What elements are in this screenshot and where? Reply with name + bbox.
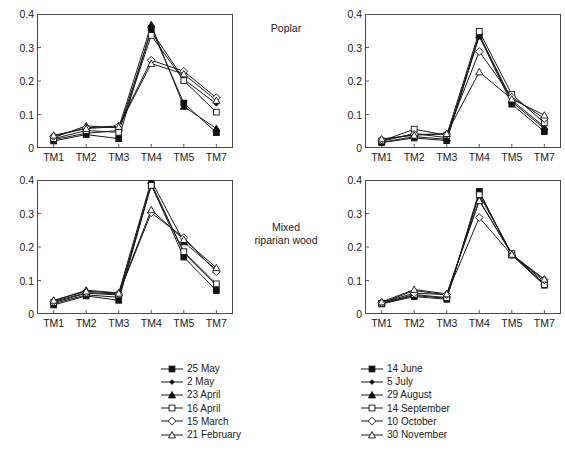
y-tick-label: 0 (28, 143, 34, 153)
legend-marker-filled-square-icon (360, 363, 384, 375)
x-tick-label-tm3: TM3 (108, 318, 129, 329)
x-axis-labels-br: TM1TM2TM3TM4TM5TM7 (365, 318, 561, 332)
legend-marker-filled-square-icon (160, 363, 184, 375)
legend-marker-filled-triangle-icon (360, 389, 384, 401)
x-axis-labels-tr: TM1TM2TM3TM4TM5TM7 (365, 152, 561, 166)
legend-item[interactable]: 16 April (160, 402, 241, 415)
plot-series-tl (37, 14, 233, 148)
y-tick-label: 0.1 (347, 276, 362, 286)
y-tick-label: 0 (356, 309, 362, 319)
x-tick-label-tm1: TM1 (43, 318, 64, 329)
legend-marker-open-diamond-icon (160, 415, 184, 427)
x-tick-label-tm3: TM3 (108, 152, 129, 163)
x-tick-label-tm2: TM2 (76, 318, 97, 329)
plot-series-bl (37, 180, 233, 314)
x-tick-label-tm3: TM3 (436, 318, 457, 329)
legend-item-label: 2 May (187, 375, 214, 388)
y-tick-label: 0.3 (347, 209, 362, 219)
legend-item-label: 15 March (187, 415, 229, 428)
legend-item[interactable]: 14 September (360, 402, 450, 415)
chart-panel-poplar-autumn: 00.10.20.30.4 TM1TM2TM3TM4TM5TM7 (336, 6, 565, 166)
row-title-poplar-text: Poplar (271, 22, 301, 34)
legend-item[interactable]: 10 October (360, 415, 450, 428)
plot-series-tr (365, 14, 561, 148)
row-title-mixed-line2: riparian wood (238, 234, 334, 247)
x-tick-label-tm2: TM2 (76, 152, 97, 163)
row-title-mixed-line1: Mixed (238, 221, 334, 234)
legend-item-label: 23 April (187, 388, 220, 401)
x-tick-label-tm5: TM5 (173, 152, 194, 163)
y-axis-labels-tr: 00.10.20.30.4 (336, 6, 362, 166)
legend-marker-open-triangle-icon (360, 429, 384, 441)
legend-marker-open-diamond-icon (360, 415, 384, 427)
chart-panel-mixed-autumn: 00.10.20.30.4 TM1TM2TM3TM4TM5TM7 (336, 172, 565, 332)
legend-item[interactable]: 21 February (160, 428, 241, 441)
y-tick-label: 0.1 (347, 110, 362, 120)
row-title-mixed-riparian-wood: Mixed riparian wood (238, 221, 334, 246)
x-tick-label-tm4: TM4 (141, 318, 162, 329)
legend-item[interactable]: 29 August (360, 388, 450, 401)
legend-item[interactable]: 30 November (360, 428, 450, 441)
plot-series-br (365, 180, 561, 314)
legend-item-label: 14 June (387, 362, 423, 375)
x-tick-label-tm2: TM2 (404, 318, 425, 329)
legend-item-label: 29 August (387, 388, 431, 401)
x-tick-label-tm1: TM1 (371, 152, 392, 163)
legend-marker-filled-triangle-icon (160, 389, 184, 401)
legend-item-label: 10 October (387, 415, 436, 428)
legend-item-label: 5 July (387, 375, 413, 388)
x-tick-label-tm7: TM7 (534, 318, 555, 329)
y-tick-label: 0.2 (19, 76, 34, 86)
y-tick-label: 0.2 (19, 242, 34, 252)
legend-item[interactable]: 25 May (160, 362, 241, 375)
y-axis-labels-br: 00.10.20.30.4 (336, 172, 362, 332)
x-tick-label-tm4: TM4 (469, 152, 490, 163)
x-axis-labels-tl: TM1TM2TM3TM4TM5TM7 (37, 152, 233, 166)
y-tick-label: 0 (28, 309, 34, 319)
x-tick-label-tm1: TM1 (43, 152, 64, 163)
y-tick-label: 0.3 (347, 43, 362, 53)
legend-item[interactable]: 2 May (160, 375, 241, 388)
y-tick-label: 0.4 (19, 175, 34, 185)
legend-item-label: 16 April (187, 402, 220, 415)
x-tick-label-tm3: TM3 (436, 152, 457, 163)
spring-dates-legend: 25 May2 May23 April16 April15 March21 Fe… (160, 362, 241, 441)
x-axis-labels-bl: TM1TM2TM3TM4TM5TM7 (37, 318, 233, 332)
chart-panel-mixed-spring: 00.10.20.30.4 TM1TM2TM3TM4TM5TM7 (8, 172, 240, 332)
legend-item[interactable]: 14 June (360, 362, 450, 375)
y-tick-label: 0.3 (19, 209, 34, 219)
legend-item[interactable]: 5 July (360, 375, 450, 388)
y-axis-labels-bl: 00.10.20.30.4 (8, 172, 34, 332)
x-tick-label-tm4: TM4 (141, 152, 162, 163)
legend-item-label: 14 September (387, 402, 450, 415)
row-title-poplar: Poplar (238, 22, 334, 35)
y-tick-label: 0.4 (347, 9, 362, 19)
x-tick-label-tm1: TM1 (371, 318, 392, 329)
chart-panel-poplar-spring: 00.10.20.30.4 TM1TM2TM3TM4TM5TM7 (8, 6, 240, 166)
x-tick-label-tm4: TM4 (469, 318, 490, 329)
figure-root: 00.10.20.30.4 TM1TM2TM3TM4TM5TM7 00.10.2… (0, 0, 565, 460)
x-tick-label-tm7: TM7 (534, 152, 555, 163)
y-tick-label: 0 (356, 143, 362, 153)
autumn-dates-legend: 14 June5 July29 August14 September10 Oct… (360, 362, 450, 441)
legend-item[interactable]: 23 April (160, 388, 241, 401)
legend-item-label: 30 November (387, 428, 447, 441)
legend-marker-filled-diamond-icon (160, 376, 184, 388)
y-tick-label: 0.4 (19, 9, 34, 19)
x-tick-label-tm5: TM5 (501, 152, 522, 163)
legend-item-label: 25 May (187, 362, 220, 375)
y-tick-label: 0.4 (347, 175, 362, 185)
y-tick-label: 0.2 (347, 242, 362, 252)
legend-marker-open-square-icon (360, 402, 384, 414)
y-tick-label: 0.3 (19, 43, 34, 53)
x-tick-label-tm7: TM7 (206, 318, 227, 329)
legend-marker-filled-diamond-icon (360, 376, 384, 388)
x-tick-label-tm7: TM7 (206, 152, 227, 163)
x-tick-label-tm5: TM5 (173, 318, 194, 329)
y-tick-label: 0.2 (347, 76, 362, 86)
y-axis-labels-tl: 00.10.20.30.4 (8, 6, 34, 166)
y-tick-label: 0.1 (19, 276, 34, 286)
legend-item[interactable]: 15 March (160, 415, 241, 428)
legend-marker-open-square-icon (160, 402, 184, 414)
x-tick-label-tm5: TM5 (501, 318, 522, 329)
